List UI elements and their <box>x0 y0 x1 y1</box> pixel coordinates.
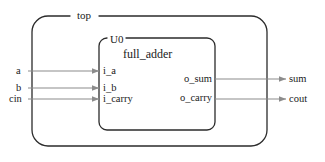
port-label-a: a <box>16 66 21 77</box>
port-label-o_sum: o_sum <box>177 74 212 85</box>
port-label-b: b <box>16 83 21 94</box>
port-label-o_carry: o_carry <box>167 93 212 104</box>
block-diagram-graphic <box>0 0 325 162</box>
port-label-i_b: i_b <box>103 83 116 94</box>
outer-module-label: top <box>77 10 91 21</box>
port-label-i_a: i_a <box>103 66 116 77</box>
inner-module-name-label: full_adder <box>123 48 172 60</box>
outer-module-boundary <box>32 16 267 146</box>
port-label-i_carry: i_carry <box>103 94 133 105</box>
port-label-cin: cin <box>9 94 22 105</box>
inner-instance-label: U0 <box>110 34 123 45</box>
diagram-canvas: top U0 full_adder i_a i_b i_carry o_sum … <box>0 0 325 162</box>
port-label-sum: sum <box>289 74 307 85</box>
port-label-cout: cout <box>289 94 307 105</box>
